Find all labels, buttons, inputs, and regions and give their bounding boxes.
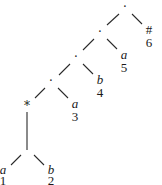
edge-n4-right (58, 88, 68, 98)
leaf-1-index: 1 (0, 173, 6, 185)
concat-node-3: · (74, 50, 78, 64)
syntax-tree-diagram: · · · · * a 1 b 2 a 3 b 4 a 5 # 6 (0, 0, 162, 185)
leaf-3-index: 3 (72, 109, 79, 124)
tree-edges (11, 14, 142, 165)
edge-n2-left (83, 39, 94, 50)
leaf-5-index: 5 (121, 60, 128, 75)
edge-root-right (132, 14, 142, 24)
edge-n3-left (59, 64, 70, 75)
concat-node-4: · (49, 74, 53, 88)
edge-n4-left (35, 88, 45, 98)
root-concat-node: · (123, 0, 127, 14)
star-node: * (24, 99, 30, 113)
leaf-6-index: 6 (146, 35, 153, 50)
leaf-4-index: 4 (97, 85, 104, 100)
edge-n5-left (11, 155, 21, 165)
edge-n5-right (34, 155, 44, 165)
leaf-2-index: 2 (48, 173, 55, 185)
leaf-nodes: a 1 b 2 a 3 b 4 a 5 # 6 (0, 22, 153, 185)
edge-n2-right (107, 39, 117, 49)
edge-root-left (107, 14, 119, 25)
concat-node-2: · (98, 25, 102, 39)
edge-n3-right (83, 64, 93, 74)
